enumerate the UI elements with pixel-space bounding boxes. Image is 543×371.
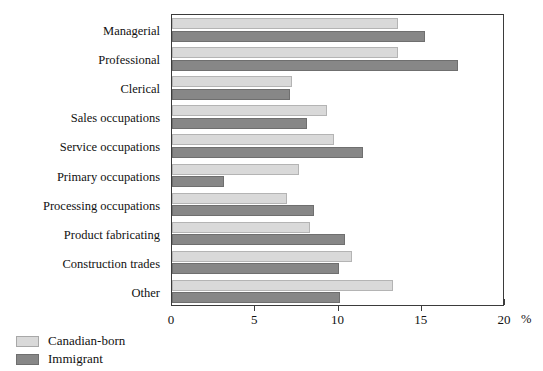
bar-group: [172, 18, 503, 42]
x-tick-15: [421, 305, 422, 311]
category-label-professional: Professional: [98, 54, 160, 67]
legend-swatch-immigrant: [16, 354, 39, 365]
category-label-managerial: Managerial: [103, 25, 160, 38]
bar-canadian-born-sales-occupations: [172, 105, 327, 116]
bar-immigrant-service-occupations: [172, 147, 363, 158]
bar-group: [172, 164, 503, 188]
x-tick-label-20: 20: [498, 312, 511, 328]
plot-area: [171, 14, 504, 305]
x-tick-5: [254, 305, 255, 311]
category-label-service-occupations: Service occupations: [60, 141, 160, 154]
legend-swatch-canadian-born: [16, 336, 39, 347]
bar-immigrant-primary-occupations: [172, 176, 224, 187]
x-tick-label-0: 0: [168, 312, 175, 328]
bar-immigrant-construction-trades: [172, 263, 339, 274]
bar-group: [172, 47, 503, 71]
bar-canadian-born-service-occupations: [172, 134, 334, 145]
bar-immigrant-other: [172, 292, 340, 303]
legend-item-canadian-born: Canadian-born: [16, 333, 125, 349]
bar-group: [172, 193, 503, 217]
x-tick-label-15: 15: [414, 312, 427, 328]
category-label-primary-occupations: Primary occupations: [57, 171, 160, 184]
bar-immigrant-sales-occupations: [172, 118, 307, 129]
x-tick-20: [504, 299, 505, 305]
bar-canadian-born-professional: [172, 47, 398, 58]
bar-canadian-born-construction-trades: [172, 251, 352, 262]
x-tick-0: [171, 299, 172, 305]
category-label-clerical: Clerical: [120, 83, 160, 96]
category-label-product-fabricating: Product fabricating: [64, 229, 160, 242]
bar-canadian-born-primary-occupations: [172, 164, 299, 175]
legend-label-canadian-born: Canadian-born: [48, 333, 125, 349]
bar-group: [172, 76, 503, 100]
x-axis-unit-label: %: [521, 312, 531, 327]
category-label-sales-occupations: Sales occupations: [71, 112, 160, 125]
bar-group: [172, 134, 503, 158]
bar-immigrant-managerial: [172, 31, 425, 42]
category-axis-labels: ManagerialProfessionalClericalSales occu…: [0, 14, 166, 304]
x-tick-10: [338, 305, 339, 311]
chart-legend: Canadian-born Immigrant: [16, 333, 125, 369]
bar-canadian-born-product-fabricating: [172, 222, 310, 233]
bar-group: [172, 105, 503, 129]
bar-canadian-born-clerical: [172, 76, 292, 87]
category-label-processing-occupations: Processing occupations: [43, 200, 160, 213]
x-tick-label-5: 5: [251, 312, 258, 328]
bar-immigrant-product-fabricating: [172, 234, 345, 245]
x-tick-label-10: 10: [331, 312, 344, 328]
bar-canadian-born-processing-occupations: [172, 193, 287, 204]
occupation-distribution-bar-chart: ManagerialProfessionalClericalSales occu…: [0, 0, 543, 371]
category-label-other: Other: [132, 287, 160, 300]
legend-label-immigrant: Immigrant: [48, 351, 103, 367]
category-label-construction-trades: Construction trades: [62, 258, 160, 271]
bar-canadian-born-managerial: [172, 18, 398, 29]
bar-group: [172, 222, 503, 246]
bar-immigrant-professional: [172, 60, 458, 71]
bar-immigrant-processing-occupations: [172, 205, 314, 216]
bar-immigrant-clerical: [172, 89, 290, 100]
bar-group: [172, 280, 503, 304]
bar-canadian-born-other: [172, 280, 393, 291]
legend-item-immigrant: Immigrant: [16, 351, 125, 367]
bar-group: [172, 251, 503, 275]
